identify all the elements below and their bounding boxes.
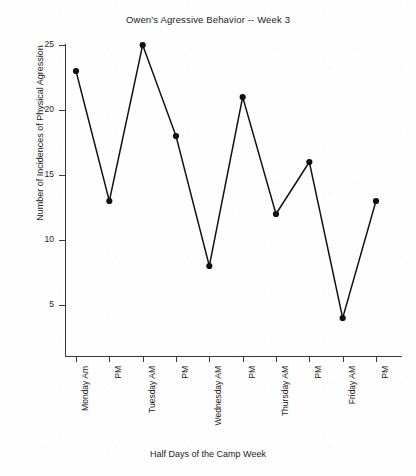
data-point-3 xyxy=(173,133,179,139)
data-series-markers xyxy=(73,42,379,321)
x-tick-label-7: PM xyxy=(313,366,323,379)
chart-title: Owen's Agressive Behavior -- Week 3 xyxy=(0,14,416,25)
data-point-7 xyxy=(306,159,312,165)
x-tick-4 xyxy=(209,357,210,362)
y-tick-label-10: 10 xyxy=(14,234,54,244)
chart-figure: Owen's Agressive Behavior -- Week 3 Numb… xyxy=(0,0,416,476)
x-tick-1 xyxy=(109,357,110,362)
data-point-6 xyxy=(273,211,279,217)
y-tick-10 xyxy=(59,240,65,241)
y-tick-25 xyxy=(59,45,65,46)
y-tick-label-25: 25 xyxy=(14,39,54,49)
data-point-1 xyxy=(106,198,112,204)
x-tick-label-9: PM xyxy=(380,366,390,379)
y-axis-title: Number of Incidences of Physical Agressi… xyxy=(35,23,45,243)
x-tick-0 xyxy=(76,357,77,362)
data-point-5 xyxy=(240,94,246,100)
x-tick-label-8: Friday AM xyxy=(347,366,357,404)
data-point-0 xyxy=(73,68,79,74)
paper-grain-overlay xyxy=(0,0,416,476)
data-point-9 xyxy=(373,198,379,204)
x-tick-label-0: Monday Am xyxy=(80,366,90,411)
x-tick-label-3: PM xyxy=(180,366,190,379)
y-tick-label-20: 20 xyxy=(14,104,54,114)
x-tick-label-1: PM xyxy=(113,366,123,379)
y-tick-20 xyxy=(59,110,65,111)
y-tick-label-5: 5 xyxy=(14,299,54,309)
data-series-line xyxy=(76,45,376,318)
x-tick-3 xyxy=(176,357,177,362)
data-point-4 xyxy=(206,263,212,269)
y-tick-15 xyxy=(59,175,65,176)
x-tick-label-4: Wednesday AM xyxy=(213,366,223,425)
x-tick-6 xyxy=(276,357,277,362)
x-tick-label-5: PM xyxy=(247,366,257,379)
x-tick-label-6: Thursday AM xyxy=(280,366,290,416)
chart-plot xyxy=(0,0,416,476)
x-tick-label-2: Tuesday AM xyxy=(147,366,157,413)
x-axis-line xyxy=(65,356,402,357)
x-tick-8 xyxy=(343,357,344,362)
x-axis-title: Half Days of the Camp Week xyxy=(0,449,416,459)
x-tick-2 xyxy=(143,357,144,362)
x-tick-9 xyxy=(376,357,377,362)
y-tick-label-15: 15 xyxy=(14,169,54,179)
data-point-2 xyxy=(140,42,146,48)
x-tick-5 xyxy=(243,357,244,362)
y-tick-5 xyxy=(59,305,65,306)
x-tick-7 xyxy=(309,357,310,362)
y-axis-line xyxy=(65,44,66,357)
data-point-8 xyxy=(340,315,346,321)
